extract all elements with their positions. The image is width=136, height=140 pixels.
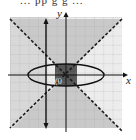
y-axis-arrow-icon xyxy=(64,12,69,17)
origin-label: (0 xyxy=(55,77,62,86)
y-axis-label: y xyxy=(56,7,62,19)
inequality-graph: y x (0 xyxy=(0,0,136,140)
x-axis-label: x xyxy=(125,74,131,86)
